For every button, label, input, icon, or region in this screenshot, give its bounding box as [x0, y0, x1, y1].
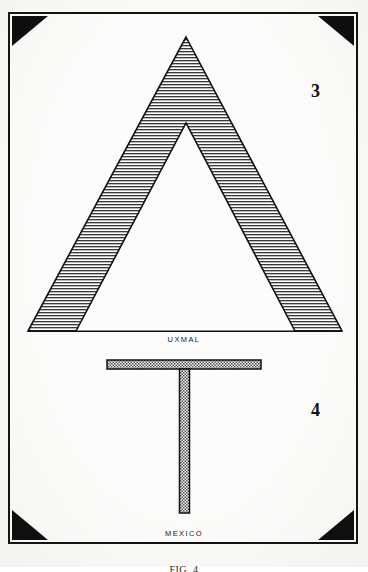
- figure-number-4: 4: [311, 401, 320, 419]
- figure-caption-uxmal: UXMAL: [0, 336, 368, 344]
- corner-ornament-top-left: [12, 16, 48, 46]
- figure-number-3: 3: [311, 82, 320, 100]
- plate-bottom-caption: FIG. 4: [0, 564, 368, 572]
- corner-ornament-top-right: [318, 16, 354, 46]
- figure-caption-mexico: MEXICO: [0, 530, 368, 538]
- plate-frame: 3 4: [8, 12, 358, 544]
